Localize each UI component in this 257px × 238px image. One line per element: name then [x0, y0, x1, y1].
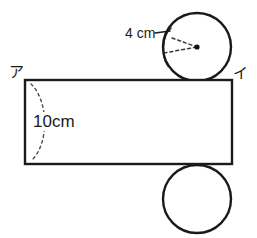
vertex-label-i: イ [233, 65, 248, 80]
vertex-label-a: ア [9, 64, 24, 79]
height-dimension-label: 10cm [31, 112, 77, 131]
radius-dimension-label: 4 cm [125, 26, 155, 40]
geometry-figure: ア イ 4 cm 10cm [0, 0, 257, 238]
bottom-base-circle [163, 165, 231, 233]
circle-center-point [194, 44, 199, 49]
